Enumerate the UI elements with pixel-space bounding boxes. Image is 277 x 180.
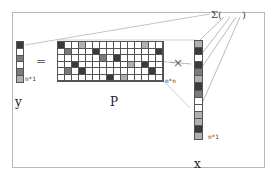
matrix-cell: [107, 75, 114, 82]
matrix-cell: [100, 75, 107, 82]
vector-cell: [195, 83, 202, 90]
matrix-cell: [58, 75, 65, 82]
p-matrix-label: P: [110, 96, 118, 108]
matrix-cell: [86, 75, 93, 82]
matrix-cell: [93, 75, 100, 82]
matrix-cell: [72, 75, 79, 82]
connector-lines: [0, 0, 277, 180]
matrix-cell: [114, 75, 121, 82]
y-dimension-label: n*1: [25, 76, 36, 82]
p-matrix: [57, 41, 164, 82]
vector-cell: [195, 91, 202, 98]
vector-cell: [17, 56, 23, 63]
matrix-cell: [79, 75, 86, 82]
vector-cell: [17, 49, 23, 56]
matrix-cell: [135, 75, 142, 82]
vector-cell: [17, 76, 23, 82]
y-vector: [16, 41, 24, 83]
vector-cell: [195, 76, 202, 83]
sum-symbol: Σ(: [211, 9, 222, 20]
sum-terms: · · ·: [225, 13, 233, 19]
matrix-cell: [128, 75, 135, 82]
vector-cell: [195, 41, 202, 48]
vector-cell: [195, 126, 202, 133]
vector-cell: [195, 119, 202, 126]
vector-cell: [17, 42, 23, 49]
sum-close-paren: ): [242, 9, 246, 20]
equals-sign: =: [36, 55, 46, 67]
vector-cell: [17, 62, 23, 69]
matrix-cell: [142, 75, 149, 82]
y-vector-label: y: [15, 96, 22, 108]
vector-cell: [195, 69, 202, 76]
matrix-cell: [156, 75, 163, 82]
vector-cell: [195, 105, 202, 112]
vector-cell: [195, 55, 202, 62]
vector-cell: [195, 48, 202, 55]
matrix-cell: [121, 75, 128, 82]
x-vector: [194, 40, 203, 140]
vector-cell: [195, 112, 202, 119]
vector-cell: [17, 69, 23, 76]
p-dimension-label: n*n: [165, 78, 176, 84]
multiply-sign: ×: [173, 57, 183, 69]
vector-cell: [195, 98, 202, 105]
matrix-cell: [65, 75, 72, 82]
matrix-cell: [149, 75, 156, 82]
x-dimension-label: n*1: [208, 134, 219, 140]
sum-expression: Σ(· · ·): [211, 10, 246, 20]
vector-cell: [195, 133, 202, 139]
x-vector-label: x: [194, 158, 201, 170]
vector-cell: [195, 62, 202, 69]
